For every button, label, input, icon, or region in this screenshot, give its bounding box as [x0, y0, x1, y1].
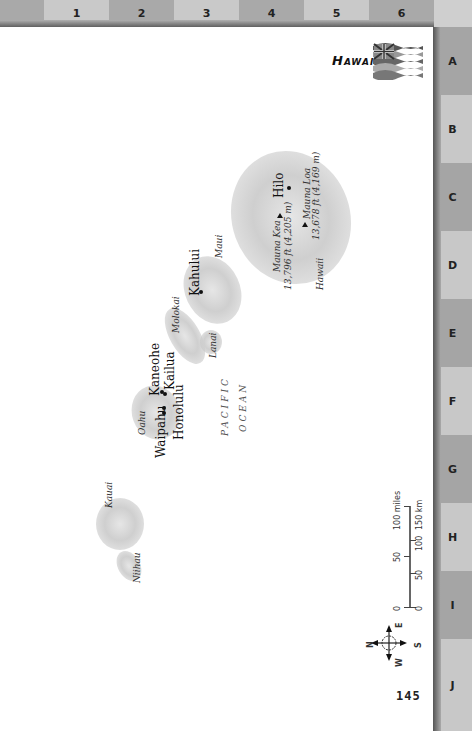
ocean-label-pacific: PACIFIC — [220, 376, 230, 436]
scale-km-label-50: 50 — [415, 570, 424, 580]
grid-row-label: B — [448, 123, 456, 136]
grid-column-label: 3 — [203, 7, 211, 20]
city-label-kaneohe: Kaneohe — [148, 343, 162, 396]
compass-west-label: W — [395, 658, 404, 667]
city-label-waipahu: Waipahu — [154, 405, 168, 458]
grid-row-label: J — [450, 679, 454, 692]
island-label-kauai: Kauai — [104, 482, 114, 508]
grid-column-label: 4 — [268, 7, 276, 20]
compass-north-label: N — [366, 641, 375, 648]
scale-tick — [404, 506, 410, 507]
hawaii-flag-icon — [371, 40, 425, 80]
scale-km-label-150: 150 km — [415, 500, 424, 530]
grid-column-label: 2 — [138, 7, 146, 20]
grid-column-label: 1 — [73, 7, 81, 20]
island-label-maui: Maui — [214, 235, 224, 258]
city-label-kahului: Kahului — [188, 249, 202, 296]
city-label-hilo: Hilo — [272, 173, 286, 198]
city-marker-hilo — [287, 186, 291, 190]
ocean-label-ocean: OCEAN — [238, 382, 248, 432]
grid-row-label: F — [449, 395, 457, 408]
scale-bar — [409, 506, 411, 608]
peak-elevation-mauna-loa: 13,678 ft (4,169 m) — [311, 152, 321, 240]
scale-km-label-100: 100 — [415, 536, 424, 551]
scale-km-label-0: 0 — [415, 606, 424, 611]
peak-marker-mauna-loa — [302, 222, 308, 227]
city-label-honolulu: Honolulu — [172, 384, 186, 440]
band-corner — [434, 0, 472, 27]
grid-row-label: I — [450, 599, 454, 612]
grid-row-label: C — [448, 191, 456, 204]
grid-row-label: A — [448, 55, 457, 68]
island-label-oahu: Oahu — [137, 411, 147, 435]
island-label-lanai: Lanai — [208, 333, 218, 358]
scale-miles-label-100: 100 miles — [393, 491, 402, 530]
band-shadow — [433, 27, 441, 731]
scale-miles-label-50: 50 — [393, 552, 402, 562]
island-label-molokai: Molokai — [171, 296, 181, 333]
peak-label-mauna-kea: Mauna Kea — [272, 220, 282, 272]
grid-row-label: D — [448, 259, 457, 272]
compass-south-label: S — [414, 642, 423, 648]
grid-column-label: 5 — [333, 7, 341, 20]
island-label-hawaii: Hawaii — [315, 258, 325, 290]
island-label-niihau: Niihau — [132, 552, 142, 583]
peak-elevation-mauna-kea: 13,796 ft (4,205 m) — [283, 202, 293, 290]
grid-row-label: G — [448, 463, 457, 476]
city-marker-kailua — [163, 392, 167, 396]
grid-row-label: H — [448, 531, 457, 544]
grid-row-label: E — [449, 327, 457, 340]
scale-miles-label-0: 0 — [393, 606, 402, 611]
compass-east-label: E — [395, 623, 404, 628]
page-number: 145 — [396, 689, 421, 703]
grid-column-label: 6 — [398, 7, 406, 20]
scale-tick — [404, 556, 410, 557]
